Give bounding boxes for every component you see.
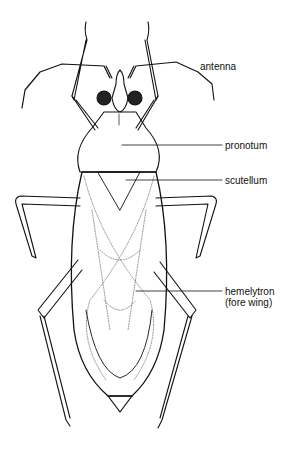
label-antenna: antenna <box>200 61 236 72</box>
label-fore-wing: (fore wing) <box>225 297 272 308</box>
mid-legs <box>16 196 217 258</box>
wing-membrane-edge <box>86 310 152 378</box>
insect-illustration <box>0 0 291 456</box>
pronotum-shape <box>78 112 160 172</box>
hemelytra <box>84 176 154 380</box>
hind-legs <box>38 260 196 428</box>
label-hemelytron: hemelytron <box>225 286 274 297</box>
abdomen-tip <box>108 396 132 412</box>
label-scutellum: scutellum <box>225 175 267 186</box>
head <box>97 70 142 112</box>
antennae <box>22 62 214 108</box>
front-legs <box>72 22 158 130</box>
label-pronotum: pronotum <box>225 140 267 151</box>
abdomen-outline <box>71 172 166 396</box>
scutellum-shape <box>98 172 140 210</box>
